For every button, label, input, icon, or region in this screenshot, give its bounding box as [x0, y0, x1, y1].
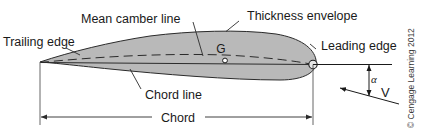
- thickness-envelope-leader: [226, 21, 239, 32]
- velocity-label: V: [381, 85, 390, 100]
- angle-of-attack-label: α: [371, 73, 377, 85]
- mean-camber-line-label: Mean camber line: [81, 12, 180, 26]
- airfoil-diagram-svg: G Mean camber line Thickness envelope Tr…: [0, 0, 423, 138]
- centroid-label: G: [216, 42, 225, 56]
- leading-edge-label: Leading edge: [321, 39, 397, 53]
- thickness-envelope-label: Thickness envelope: [247, 9, 358, 23]
- leading-edge-leader: [310, 44, 316, 49]
- airfoil-body-shape: [40, 31, 316, 80]
- chord-line-label: Chord line: [145, 88, 202, 102]
- copyright-label: © Cengage Learning 2012: [406, 28, 416, 128]
- airfoil-shape-group: [40, 31, 316, 80]
- airfoil-diagram-figure: G Mean camber line Thickness envelope Tr…: [0, 0, 423, 138]
- trailing-edge-label: Trailing edge: [3, 35, 75, 49]
- centroid-marker-icon: [223, 58, 228, 63]
- chord-label: Chord: [161, 111, 195, 125]
